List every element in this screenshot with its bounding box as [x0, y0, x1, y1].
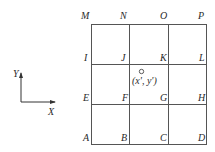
node-label-e: E — [82, 92, 89, 103]
node-label-m: M — [80, 10, 90, 21]
node-label-n: N — [119, 10, 128, 21]
node-label-b: B — [121, 132, 127, 143]
node-label-k: K — [159, 52, 168, 63]
grid-interpolation-diagram: Y X M N O P I J K L E F G H A B C D (x — [0, 0, 215, 152]
node-label-d: D — [197, 132, 206, 143]
labels-row-2: I J K L — [83, 52, 205, 63]
node-label-p: P — [197, 10, 204, 21]
labels-row-3: E F G H — [82, 92, 206, 103]
y-axis-label: Y — [13, 68, 20, 79]
node-label-i: I — [83, 52, 88, 63]
interpolation-point: (x', y') — [132, 69, 157, 87]
labels-top-row: M N O P — [80, 10, 204, 21]
node-label-g: G — [160, 92, 167, 103]
point-label: (x', y') — [132, 75, 157, 87]
node-label-j: J — [121, 52, 126, 63]
axis-indicator: Y X — [13, 68, 55, 117]
node-label-o: O — [160, 10, 167, 21]
node-label-a: A — [82, 132, 90, 143]
x-axis-label: X — [47, 106, 55, 117]
point-marker-icon — [139, 69, 143, 73]
node-label-f: F — [121, 92, 129, 103]
node-label-h: H — [197, 92, 206, 103]
labels-bottom-row: A B C D — [82, 132, 206, 143]
node-label-l: L — [198, 52, 205, 63]
node-label-c: C — [160, 132, 167, 143]
